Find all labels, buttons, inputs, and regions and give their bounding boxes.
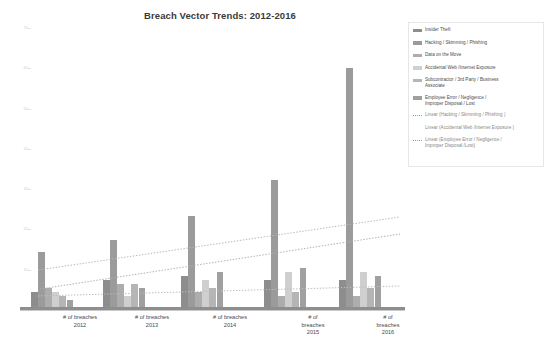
bar[interactable] [117, 284, 124, 308]
legend-line-swatch [413, 115, 422, 116]
legend-color-swatch [413, 54, 422, 58]
bar[interactable] [285, 272, 292, 308]
legend-item-label: Subcontractor / 3rd Party / Business Ass… [425, 77, 499, 89]
x-axis-label: # of breaches 2013 [122, 314, 182, 329]
y-axis-tick-label: 40 [8, 147, 28, 151]
bar[interactable] [103, 280, 110, 308]
bar[interactable] [346, 68, 353, 308]
chart-title: Breach Vector Trends: 2012-2016 [0, 10, 440, 21]
legend-item[interactable]: Linear (Hacking / Skimming / Phishing ) [413, 112, 540, 119]
y-axis-tick-label: 60 [8, 66, 28, 70]
bar[interactable] [202, 280, 209, 308]
legend-item[interactable]: Linear (Accidental Web /Internet Exposur… [413, 125, 540, 132]
bar[interactable] [360, 272, 367, 308]
x-axis-label: # of breaches 2015 [283, 314, 343, 337]
legend-color-swatch [413, 29, 422, 33]
legend-item-label: Hacking / Skimming / Phishing [425, 40, 487, 46]
bar[interactable] [367, 288, 374, 308]
legend-color-swatch [413, 41, 422, 45]
bar[interactable] [300, 268, 307, 308]
legend-line-swatch [413, 126, 422, 130]
bar[interactable] [131, 284, 138, 308]
y-axis-tick-label: 10 [8, 268, 28, 272]
bar[interactable] [38, 252, 45, 308]
bar[interactable] [209, 288, 216, 308]
legend-item[interactable]: Insider Theft [413, 27, 540, 34]
y-axis-tick-label: 20 [8, 227, 28, 231]
bar[interactable] [375, 276, 382, 308]
bar[interactable] [188, 216, 195, 308]
legend-item[interactable]: Subcontractor / 3rd Party / Business Ass… [413, 77, 540, 89]
legend-item[interactable]: Data on the Move [413, 52, 540, 59]
legend-color-swatch [413, 66, 422, 70]
x-axis-label: # of breaches 2014 [200, 314, 260, 329]
y-axis: 706050403020100 [8, 28, 28, 310]
legend-item[interactable]: Employee Error / Negligence / Improper D… [413, 95, 540, 107]
legend-color-swatch [413, 96, 422, 100]
bar[interactable] [217, 272, 224, 308]
bar[interactable] [45, 288, 52, 308]
chart-container: Breach Vector Trends: 2012-2016 70605040… [0, 0, 549, 353]
legend-line-swatch [413, 140, 422, 141]
y-axis-tick-label: 50 [8, 107, 28, 111]
bar[interactable] [139, 288, 146, 308]
legend-item[interactable]: Hacking / Skimming / Phishing [413, 40, 540, 47]
legend-item-label: Linear (Accidental Web /Internet Exposur… [425, 125, 514, 131]
bar[interactable] [52, 292, 59, 308]
bar[interactable] [264, 280, 271, 308]
chart-legend: Insider TheftHacking / Skimming / Phishi… [408, 22, 544, 167]
legend-item[interactable]: Accidental Web /Internet Exposure [413, 65, 540, 72]
bar-group [264, 28, 306, 308]
x-axis-label: # of breaches 2016 [358, 314, 418, 337]
legend-item[interactable]: Linear (Employee Error / Negligence / Im… [413, 137, 540, 149]
bar[interactable] [271, 180, 278, 308]
x-axis-label: # of breaches 2012 [50, 314, 110, 329]
bar[interactable] [339, 280, 346, 308]
legend-item-label: Linear (Hacking / Skimming / Phishing ) [425, 112, 505, 118]
legend-item-label: Employee Error / Negligence / Improper D… [425, 95, 486, 107]
legend-item-label: Data on the Move [425, 52, 461, 58]
bar-group [339, 28, 381, 308]
bar[interactable] [292, 292, 299, 308]
bar-group [103, 28, 145, 308]
bar[interactable] [110, 240, 117, 308]
y-axis-tick-label: 30 [8, 187, 28, 191]
bar[interactable] [195, 292, 202, 308]
plot-area [28, 28, 400, 308]
bar[interactable] [181, 276, 188, 308]
x-axis-line [20, 307, 405, 310]
legend-item-label: Linear (Employee Error / Negligence / Im… [425, 137, 502, 149]
legend-item-label: Insider Theft [425, 27, 450, 33]
bar[interactable] [31, 292, 38, 308]
legend-color-swatch [413, 79, 422, 83]
bar-group [181, 28, 223, 308]
legend-item-label: Accidental Web /Internet Exposure [425, 65, 496, 71]
y-axis-tick-label: 70 [8, 26, 28, 30]
bar-group [31, 28, 73, 308]
